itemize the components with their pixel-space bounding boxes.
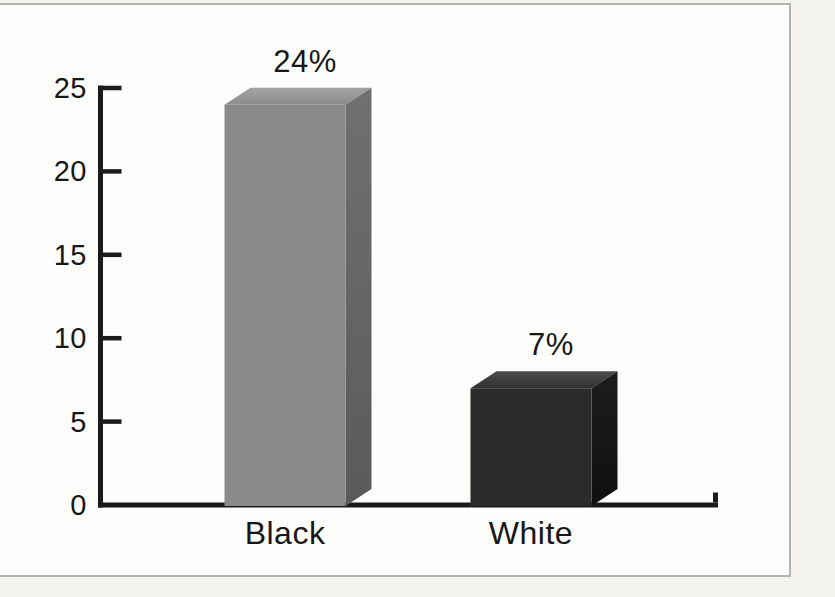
chart-axes-and-bars: [0, 0, 835, 597]
x-axis-end-tick: [713, 493, 718, 503]
y-tick-10: [102, 336, 122, 341]
y-tick-5: [102, 419, 122, 424]
y-tick-25: [102, 86, 122, 91]
bar-chart: 051015202524%Black7%White: [0, 0, 835, 597]
bar-white-side: [592, 371, 618, 506]
y-tick-label-5: 5: [20, 407, 87, 437]
y-tick-label-20: 20: [20, 156, 87, 186]
category-label-white: White: [451, 516, 611, 550]
y-tick-label-10: 10: [20, 323, 87, 353]
x-axis-line: [98, 503, 718, 508]
bar-white-front: [471, 388, 592, 506]
y-tick-20: [102, 169, 122, 174]
bar-black-side: [346, 88, 372, 506]
bar-black-front: [225, 105, 346, 506]
y-tick-15: [102, 253, 122, 257]
y-tick-label-25: 25: [20, 73, 87, 103]
y-tick-label-0: 0: [20, 490, 87, 520]
value-label-white: 7%: [491, 327, 611, 363]
y-axis-line: [98, 86, 103, 508]
category-label-black: Black: [205, 516, 365, 550]
y-tick-label-15: 15: [20, 240, 87, 270]
scanned-page: 051015202524%Black7%White: [0, 0, 835, 597]
value-label-black: 24%: [245, 44, 365, 80]
